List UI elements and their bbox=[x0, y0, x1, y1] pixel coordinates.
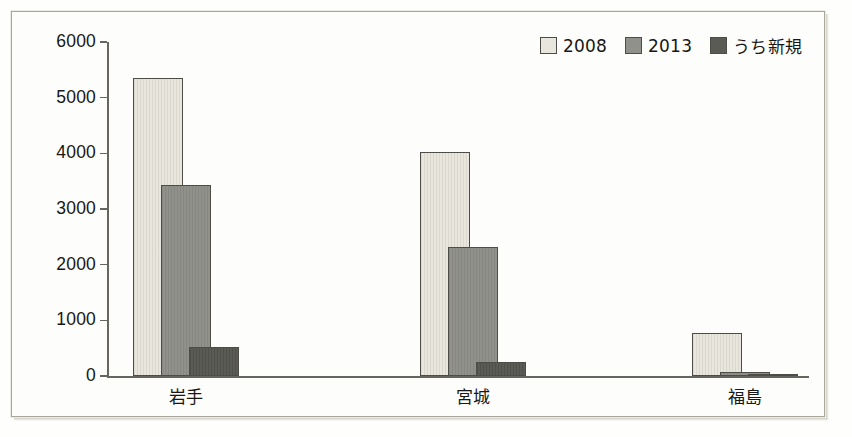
bar-宮城-2013 bbox=[448, 247, 498, 376]
legend-label: 2008 bbox=[563, 36, 607, 56]
legend-swatch-icon bbox=[540, 37, 557, 54]
category-label-宮城: 宮城 bbox=[413, 383, 533, 408]
legend-item-2013: 2013 bbox=[625, 36, 692, 56]
x-axis-line bbox=[107, 376, 809, 378]
y-axis-tick bbox=[100, 264, 107, 266]
y-axis-tick-label: 1000 bbox=[24, 309, 96, 330]
y-axis-tick-label: 6000 bbox=[24, 31, 96, 52]
bar-福島-2008 bbox=[692, 333, 742, 376]
y-axis-tick bbox=[100, 41, 107, 43]
category-label-岩手: 岩手 bbox=[126, 383, 246, 408]
y-axis-tick-label: 4000 bbox=[24, 142, 96, 163]
y-axis-tick bbox=[100, 320, 107, 322]
category-label-福島: 福島 bbox=[685, 383, 805, 408]
legend-item-2008: 2008 bbox=[540, 36, 607, 56]
y-axis-tick-label: 2000 bbox=[24, 254, 96, 275]
y-axis-tick bbox=[100, 208, 107, 210]
legend-label: 2013 bbox=[648, 36, 692, 56]
y-axis-line bbox=[107, 42, 109, 377]
legend-swatch-icon bbox=[625, 37, 642, 54]
bar-岩手-うち新規 bbox=[189, 347, 239, 376]
y-axis-tick-label: 3000 bbox=[24, 198, 96, 219]
bar-chart: 6000500040003000200010000 岩手宮城福島 2008201… bbox=[0, 0, 852, 437]
y-axis-tick bbox=[100, 97, 107, 99]
y-axis-tick bbox=[100, 375, 107, 377]
y-axis-tick-label: 5000 bbox=[24, 87, 96, 108]
legend-item-うち新規: うち新規 bbox=[710, 33, 802, 58]
bar-福島-うち新規 bbox=[748, 374, 798, 376]
legend-swatch-icon bbox=[710, 37, 727, 54]
y-axis-tick-label: 0 bbox=[24, 365, 96, 386]
bar-宮城-うち新規 bbox=[476, 362, 526, 376]
chart-legend: 20082013うち新規 bbox=[540, 33, 802, 58]
legend-label: うち新規 bbox=[733, 33, 802, 58]
y-axis-tick bbox=[100, 153, 107, 155]
